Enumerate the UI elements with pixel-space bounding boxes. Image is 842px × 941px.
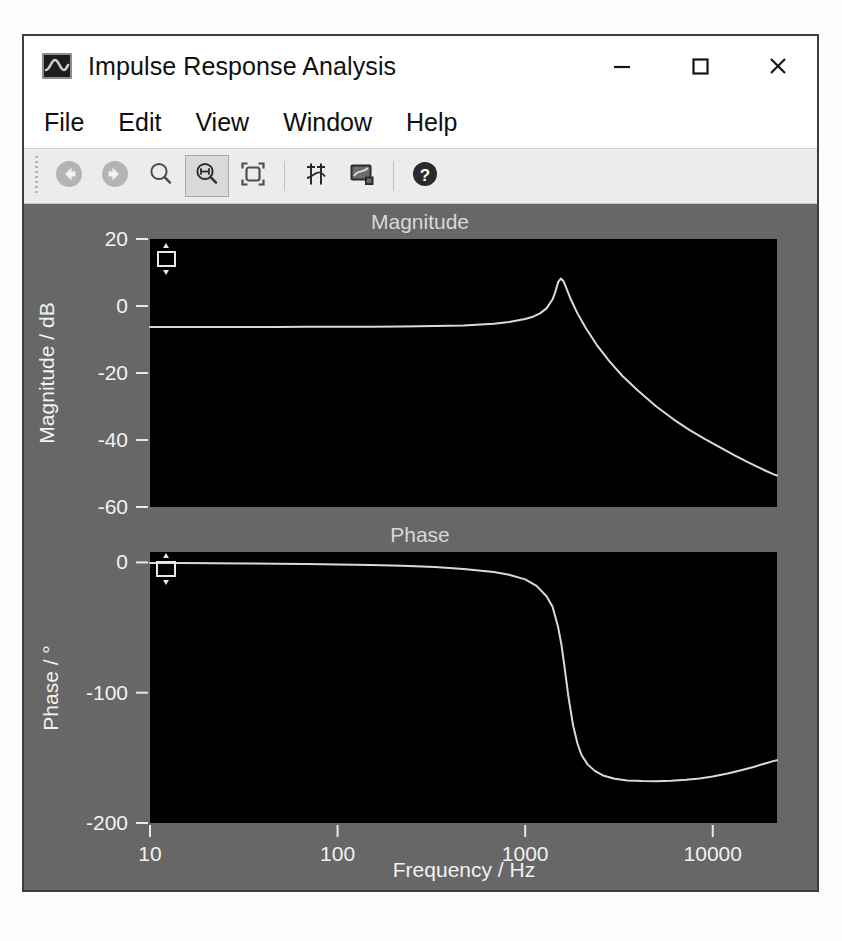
- magnitude-y-tick-label: 20: [105, 227, 128, 250]
- close-button[interactable]: [739, 36, 817, 96]
- minimize-button[interactable]: [583, 36, 661, 96]
- back-button[interactable]: [47, 155, 91, 197]
- zoom-x-icon: [192, 159, 222, 193]
- application-window: Impulse Response Analysis: [22, 34, 819, 892]
- zoom-button[interactable]: [139, 155, 183, 197]
- phase-plot-title: Phase: [390, 523, 450, 546]
- magnitude-y-ticks: 200-20-40-60: [98, 227, 148, 518]
- toolbar-separator-1: [284, 161, 285, 191]
- magnitude-axes-background: [150, 239, 777, 507]
- markers-icon: [301, 159, 331, 193]
- zoom-icon: [146, 159, 176, 193]
- plots-canvas[interactable]: Magnitude 200-20-40-60 Magnitude / dB Ph…: [24, 204, 817, 890]
- menu-item-window[interactable]: Window: [283, 108, 372, 137]
- menu-bar: File Edit View Window Help: [24, 96, 817, 148]
- help-button[interactable]: ?: [403, 155, 447, 197]
- magnitude-y-tick-label: 0: [116, 294, 128, 317]
- phase-y-tick-label: -200: [86, 811, 128, 834]
- toolbar-separator-2: [393, 161, 394, 191]
- menu-item-help[interactable]: Help: [406, 108, 457, 137]
- forward-button[interactable]: [93, 155, 137, 197]
- help-icon: ?: [410, 159, 440, 193]
- maximize-button[interactable]: [661, 36, 739, 96]
- annotation-button[interactable]: [340, 155, 384, 197]
- frequency-x-axis-label: Frequency / Hz: [393, 858, 535, 881]
- window-title: Impulse Response Analysis: [88, 52, 396, 81]
- magnitude-y-tick-label: -20: [98, 361, 128, 384]
- back-icon: [54, 159, 84, 193]
- annotation-icon: [347, 159, 377, 193]
- magnitude-plot-title: Magnitude: [371, 210, 469, 233]
- menu-item-file[interactable]: File: [44, 108, 84, 137]
- window-controls: [583, 36, 817, 96]
- fit-window-button[interactable]: [231, 155, 275, 197]
- page-background: Impulse Response Analysis: [0, 0, 842, 941]
- toolbar-drag-handle[interactable]: [32, 156, 42, 196]
- frequency-x-tick-label: 100: [320, 842, 355, 865]
- magnitude-y-axis-label: Magnitude / dB: [35, 302, 58, 443]
- phase-y-tick-label: 0: [116, 550, 128, 573]
- magnitude-y-tick-label: -40: [98, 428, 128, 451]
- markers-button[interactable]: [294, 155, 338, 197]
- phase-plot[interactable]: Phase 0-100-200 10100100010000 Phase / °…: [39, 523, 777, 881]
- fit-window-icon: [238, 159, 268, 193]
- phase-y-ticks: 0-100-200: [86, 550, 148, 834]
- forward-icon: [100, 159, 130, 193]
- menu-item-view[interactable]: View: [195, 108, 249, 137]
- magnitude-y-tick-label: -60: [98, 495, 128, 518]
- menu-item-edit[interactable]: Edit: [118, 108, 161, 137]
- magnitude-plot[interactable]: Magnitude 200-20-40-60 Magnitude / dB: [35, 210, 777, 518]
- frequency-x-tick-label: 10000: [684, 842, 742, 865]
- phase-axes-background: [150, 552, 777, 823]
- waveform-icon: [42, 53, 72, 79]
- svg-text:?: ?: [420, 166, 430, 185]
- zoom-x-button[interactable]: [185, 155, 229, 197]
- frequency-x-tick-label: 10: [138, 842, 161, 865]
- title-bar: Impulse Response Analysis: [24, 36, 817, 96]
- plot-region: Magnitude 200-20-40-60 Magnitude / dB Ph…: [24, 204, 817, 890]
- phase-y-axis-label: Phase / °: [39, 645, 62, 730]
- phase-y-tick-label: -100: [86, 681, 128, 704]
- toolbar: ?: [24, 148, 817, 204]
